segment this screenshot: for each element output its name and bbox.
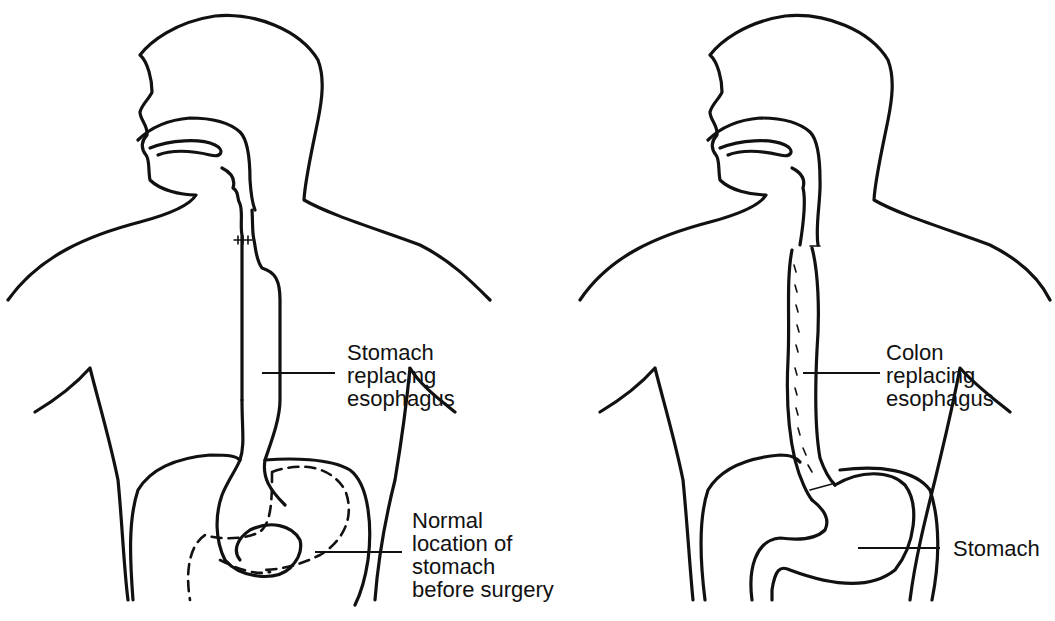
right-colon-right-wall bbox=[812, 248, 835, 485]
right-colon-haustra bbox=[794, 265, 812, 472]
right-stomach bbox=[751, 474, 914, 600]
left-stomach-tube-left-wall bbox=[217, 400, 301, 576]
diagram-canvas: Stomach replacing esophagus Normal locat… bbox=[0, 0, 1055, 621]
label-colon-replacing-esophagus: Colon replacing esophagus bbox=[886, 341, 994, 410]
left-anastomosis-stitch bbox=[234, 236, 252, 244]
right-throat bbox=[792, 168, 804, 245]
right-palate bbox=[720, 141, 791, 156]
left-stomach-curve bbox=[265, 459, 370, 605]
right-ribcage-left bbox=[600, 368, 693, 600]
left-liver bbox=[131, 455, 240, 600]
label-stomach-replacing-esophagus: Stomach replacing esophagus bbox=[347, 341, 455, 410]
left-ribcage-left bbox=[35, 368, 128, 600]
left-palate bbox=[150, 141, 221, 156]
right-colon-stitch bbox=[810, 246, 832, 490]
label-normal-stomach-location: Normal location of stomach before surger… bbox=[412, 509, 554, 601]
label-stomach: Stomach bbox=[953, 537, 1040, 560]
left-throat bbox=[222, 168, 242, 400]
